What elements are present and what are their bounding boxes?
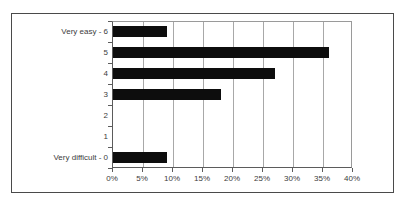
x-axis-label: 0% [95, 174, 129, 184]
y-axis-tick [108, 126, 112, 127]
x-axis-label: 5% [125, 174, 159, 184]
x-axis-label: 25% [245, 174, 279, 184]
bar-row [113, 106, 351, 127]
y-axis-tick [108, 147, 112, 148]
y-axis-label: 4 [8, 69, 108, 78]
x-axis-label: 30% [275, 174, 309, 184]
bar-row [113, 148, 351, 169]
y-axis-label: 2 [8, 111, 108, 120]
bar [113, 89, 221, 100]
y-axis-tick [108, 84, 112, 85]
bar-row [113, 22, 351, 43]
x-axis-tick [202, 168, 203, 172]
x-axis-label: 10% [155, 174, 189, 184]
x-axis-tick [172, 168, 173, 172]
y-axis-label: 3 [8, 90, 108, 99]
x-axis-label: 35% [305, 174, 339, 184]
bar-row [113, 85, 351, 106]
x-axis-label: 20% [215, 174, 249, 184]
x-axis-label: 40% [335, 174, 369, 184]
y-axis-labels: Very difficult - 012345Very easy - 6 [4, 21, 108, 168]
bar [113, 152, 167, 163]
y-axis-label: 5 [8, 48, 108, 57]
x-axis-tick [112, 168, 113, 172]
bar [113, 68, 275, 79]
x-axis-tick [322, 168, 323, 172]
x-axis-tick [262, 168, 263, 172]
y-axis-tick [108, 42, 112, 43]
y-axis-tick [108, 21, 112, 22]
x-axis-tick [352, 168, 353, 172]
y-axis-tick [108, 105, 112, 106]
bar [113, 26, 167, 37]
plot-area [112, 21, 352, 168]
y-axis-label: Very easy - 6 [8, 27, 108, 36]
bar-row [113, 43, 351, 64]
y-axis-label: 1 [8, 132, 108, 141]
x-axis-tick [292, 168, 293, 172]
bar [113, 47, 329, 58]
x-axis-label: 15% [185, 174, 219, 184]
bar-row [113, 64, 351, 85]
y-axis-tick [108, 63, 112, 64]
bar-row [113, 127, 351, 148]
x-axis-tick [232, 168, 233, 172]
x-axis-tick [142, 168, 143, 172]
chart-figure: Very difficult - 012345Very easy - 6 0%5… [0, 0, 409, 206]
y-axis-label: Very difficult - 0 [8, 153, 108, 162]
